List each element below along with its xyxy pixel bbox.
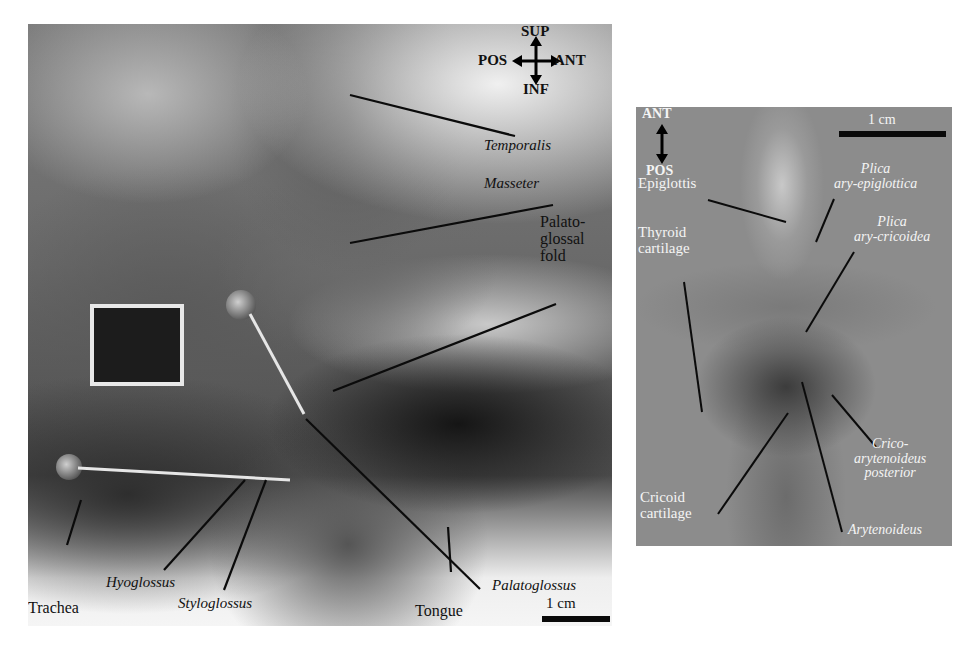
label-temporalis: Temporalis — [484, 138, 551, 154]
label-crico-arytenoideus-line3: posterior — [854, 466, 926, 481]
label-styloglossus: Styloglossus — [178, 596, 252, 612]
label-tongue: Tongue — [415, 603, 463, 620]
label-plica-ary-cricoidea-line2: ary-cricoidea — [854, 230, 930, 245]
label-masseter: Masseter — [484, 176, 539, 192]
label-arytenoideus: Arytenoideus — [848, 523, 922, 538]
scale-bar-label-a: 1 cm — [546, 596, 576, 612]
orientation-inf: INF — [523, 82, 549, 98]
label-trachea: Trachea — [28, 600, 79, 617]
orientation-ant: ANT — [554, 53, 586, 69]
dissection-photo-larynx: ANT POS 1 cm Epiglottis Plica ary-epiglo… — [636, 107, 952, 546]
label-thyroid-cartilage-line2: cartilage — [638, 241, 690, 257]
label-plica-ary-epiglottica: Plica ary-epiglottica — [834, 162, 917, 191]
label-palatoglossal-fold-line1: Palato- — [540, 214, 585, 231]
label-cricoid-cartilage: Cricoid cartilage — [640, 490, 692, 522]
reference-grid-card — [90, 304, 184, 386]
orientation-ant-b: ANT — [642, 107, 672, 122]
scale-bar-a — [542, 616, 610, 622]
dissection-photo-head: SUP POS ANT INF Temporalis Masseter Pala… — [28, 24, 612, 626]
label-crico-arytenoideus-line2: arytenoideus — [854, 452, 926, 467]
label-crico-arytenoideus-posterior: Crico- arytenoideus posterior — [854, 437, 926, 481]
label-cricoid-cartilage-line2: cartilage — [640, 506, 692, 522]
label-plica-ary-epiglottica-line1: Plica — [834, 162, 917, 177]
label-cricoid-cartilage-line1: Cricoid — [640, 490, 692, 506]
label-palatoglossus: Palatoglossus — [492, 578, 576, 594]
label-plica-ary-cricoidea: Plica ary-cricoidea — [854, 215, 930, 244]
label-crico-arytenoideus-line1: Crico- — [854, 437, 926, 452]
label-hyoglossus: Hyoglossus — [106, 575, 175, 591]
scale-bar-label-b: 1 cm — [868, 113, 896, 128]
scale-bar-b — [839, 131, 946, 137]
label-palatoglossal-fold: Palato- glossal fold — [540, 214, 585, 264]
label-palatoglossal-fold-line2: glossal — [540, 231, 585, 248]
label-epiglottis: Epiglottis — [638, 176, 696, 192]
label-plica-ary-epiglottica-line2: ary-epiglottica — [834, 177, 917, 192]
pin-head-lower — [56, 454, 82, 480]
label-plica-ary-cricoidea-line1: Plica — [854, 215, 930, 230]
label-thyroid-cartilage: Thyroid cartilage — [638, 225, 690, 257]
orientation-pos: POS — [478, 53, 507, 69]
pin-head-upper — [226, 290, 256, 320]
label-palatoglossal-fold-line3: fold — [540, 248, 585, 265]
label-thyroid-cartilage-line1: Thyroid — [638, 225, 690, 241]
orientation-sup: SUP — [521, 24, 549, 40]
